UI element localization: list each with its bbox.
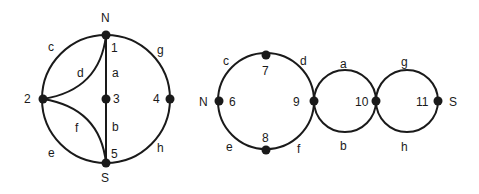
edge-label-d: d [77, 66, 84, 80]
node-3 [102, 95, 111, 104]
node-8 [262, 146, 271, 155]
node-label-11: 11 [416, 95, 429, 109]
edge-label-e: e [226, 140, 233, 154]
edge-label-d: d [300, 54, 307, 68]
terminal-label-N: N [199, 95, 208, 109]
edge-label-h: h [401, 140, 408, 154]
node-9 [310, 97, 319, 106]
graph-diagram-canvas: 12345 NS cgdafbeh 67891011 NS cdefabgh [0, 0, 479, 194]
node-6 [215, 97, 224, 106]
edge-label-g: g [401, 55, 408, 69]
edge-label-e: e [48, 146, 55, 160]
node-label-10: 10 [355, 95, 369, 109]
edge-label-h: h [157, 141, 164, 155]
right-graph: 67891011 NS cdefabgh [199, 51, 457, 157]
node-label-6: 6 [229, 95, 236, 109]
node-label-2: 2 [24, 92, 31, 106]
edge-label-c: c [223, 54, 229, 68]
node-11 [434, 97, 443, 106]
node-label-8: 8 [262, 131, 269, 145]
edge-label-a: a [340, 57, 347, 71]
node-label-5: 5 [111, 147, 118, 161]
edge-label-f: f [75, 121, 79, 135]
node-label-7: 7 [262, 64, 269, 78]
terminal-label-S: S [101, 171, 109, 185]
left-graph: 12345 NS cgdafbeh [24, 11, 175, 185]
node-label-3: 3 [113, 92, 120, 106]
node-label-1: 1 [111, 41, 118, 55]
edge-label-f: f [297, 142, 301, 156]
terminal-label-N: N [101, 11, 110, 25]
node-label-4: 4 [153, 92, 160, 106]
node-4 [166, 95, 175, 104]
node-label-9: 9 [293, 95, 300, 109]
loop-circle-2 [376, 70, 438, 132]
edge-label-c: c [48, 40, 54, 54]
node-10 [372, 97, 381, 106]
edge-label-b: b [340, 139, 347, 153]
edge-label-b: b [112, 120, 119, 134]
node-7 [262, 51, 271, 60]
node-1 [102, 31, 111, 40]
edge-label-g: g [157, 43, 164, 57]
edge-label-a: a [112, 66, 119, 80]
node-5 [102, 159, 111, 168]
terminal-label-S: S [449, 95, 457, 109]
node-2 [39, 95, 48, 104]
